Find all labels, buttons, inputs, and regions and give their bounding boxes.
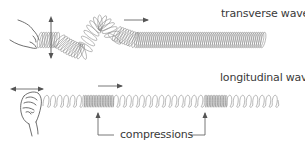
longitudinal-spring bbox=[43, 95, 279, 107]
transverse-wave-label: transverse wave bbox=[221, 7, 305, 20]
transverse-spring bbox=[36, 15, 267, 60]
compression-pointer-left bbox=[98, 113, 114, 135]
longitudinal-hand bbox=[21, 92, 42, 136]
compressions-label: compressions bbox=[120, 128, 193, 141]
transverse-hand bbox=[10, 20, 39, 48]
longitudinal-wave-label: longitudinal wave bbox=[220, 71, 305, 84]
